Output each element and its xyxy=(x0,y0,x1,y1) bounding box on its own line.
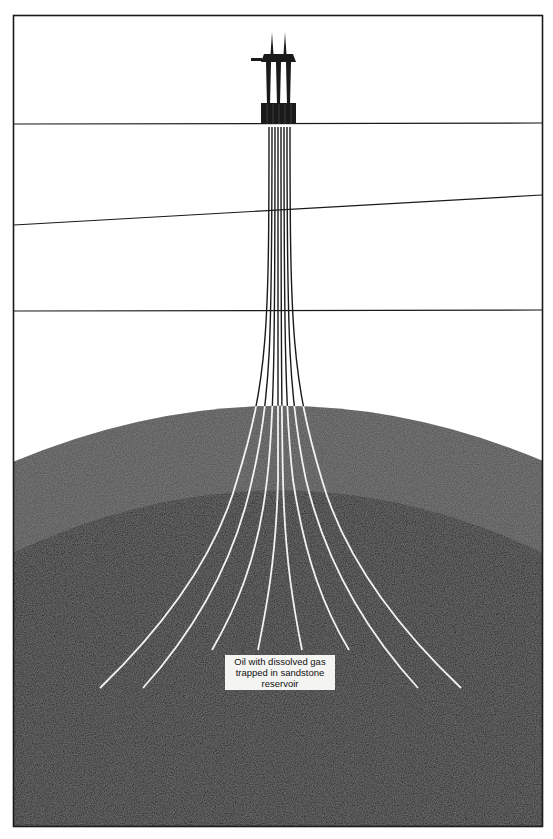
oil-reservoir-diagram xyxy=(0,0,553,839)
label-line-1: Oil with dissolved gas xyxy=(225,656,335,667)
helideck-arm xyxy=(251,58,262,61)
label-line-3: reservoir xyxy=(225,678,335,689)
reservoir-label: Oil with dissolved gas trapped in sandst… xyxy=(225,655,335,690)
platform-deck xyxy=(261,54,296,62)
label-line-2: trapped in sandstone xyxy=(225,667,335,678)
